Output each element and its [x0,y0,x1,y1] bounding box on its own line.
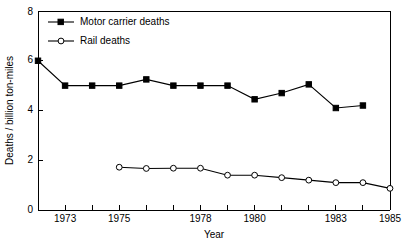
x-axis-tick-labels: 1973 1975 1978 1980 1983 1985 [54,213,402,224]
series-motor-carrier-deaths [35,58,365,111]
chart-legend: Motor carrier deaths Rail deaths [48,16,169,46]
data-point-circle [333,180,339,186]
data-point-square [333,105,338,110]
x-axis-ticks [65,205,390,210]
legend-marker-open-circle [58,38,64,44]
data-point-circle [279,175,285,181]
x-tick-label-1973: 1973 [54,213,77,224]
x-tick-label-1980: 1980 [243,213,266,224]
data-point-square [198,83,203,88]
x-tick-label-1983: 1983 [325,213,348,224]
data-point-circle [387,185,393,191]
y-tick-label-2: 2 [27,154,33,165]
line-chart: 0 2 4 6 8 Deaths / billion ton-miles [0,0,410,248]
data-point-circle [360,180,366,186]
data-point-square [35,58,40,63]
data-point-circle [198,165,204,171]
data-point-square [360,103,365,108]
data-point-square [171,83,176,88]
y-tick-label-6: 6 [27,54,33,65]
data-series-layer [35,58,393,191]
data-point-square [62,83,67,88]
data-point-square [252,97,257,102]
y-tick-label-8: 8 [27,6,33,17]
y-tick-label-4: 4 [27,104,33,115]
data-point-circle [170,165,176,171]
legend-label-rail: Rail deaths [80,35,130,46]
data-point-square [144,77,149,82]
data-point-square [306,82,311,87]
data-point-circle [306,177,312,183]
y-axis-title: Deaths / billion ton-miles [4,56,15,165]
legend-marker-filled-square [58,19,63,24]
data-point-square [225,83,230,88]
data-point-circle [116,164,122,170]
x-axis-title: Year [204,229,225,240]
legend-label-motor-carrier: Motor carrier deaths [80,16,169,27]
data-point-circle [143,166,149,172]
x-tick-label-1975: 1975 [108,213,131,224]
data-point-square [89,83,94,88]
data-point-square [279,90,284,95]
y-tick-label-0: 0 [27,204,33,215]
data-point-circle [252,172,258,178]
chart-container: 0 2 4 6 8 Deaths / billion ton-miles [0,0,410,248]
x-tick-label-1985: 1985 [379,213,402,224]
x-tick-label-1978: 1978 [189,213,212,224]
data-point-square [117,83,122,88]
data-point-circle [225,172,231,178]
y-axis-ticks [38,11,43,210]
series-rail-deaths [116,164,393,191]
y-axis-tick-labels: 0 2 4 6 8 [27,6,33,215]
